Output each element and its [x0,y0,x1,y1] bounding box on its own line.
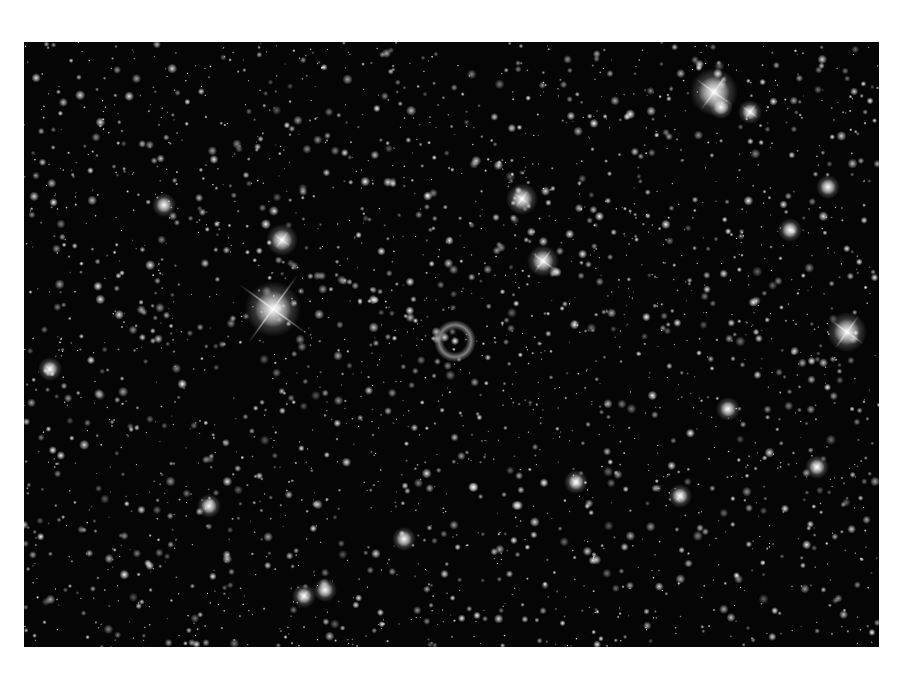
starfield-image [24,42,879,647]
starfield-canvas [24,42,879,647]
